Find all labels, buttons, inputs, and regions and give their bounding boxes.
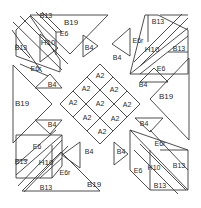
label-tr-b13-lower: B13 [173, 45, 185, 52]
label-a2-7: A2 [83, 114, 92, 121]
label-bottom-b4-left: B4 [85, 148, 94, 155]
label-tr-b13-upper: B13 [152, 18, 164, 25]
quilt-block-diagram: B13 E6 H10 B13 E6r B19 B4 B4 B13 E6r H10… [0, 0, 201, 208]
label-br-h10: H10 [148, 164, 161, 171]
label-a2-4: A2 [69, 99, 78, 106]
label-left-b4-upper: B4 [48, 81, 57, 88]
label-a2-1: A2 [96, 72, 105, 79]
label-tr-e6r: E6r [133, 37, 144, 44]
label-tl-b13-lower: B13 [15, 44, 27, 51]
label-br-b13-upper: B13 [173, 162, 185, 169]
label-br-b13-lower: B13 [154, 182, 166, 189]
label-tl-b13-upper: B13 [40, 12, 52, 19]
label-bl-e6r: E6r [60, 169, 71, 176]
label-tl-e6: E6 [60, 30, 69, 37]
piece-b4-bottom-left [62, 142, 80, 168]
label-br-e6: E6 [134, 167, 143, 174]
label-right-b4-upper: B4 [139, 81, 148, 88]
label-bottom-b4-right: B4 [117, 148, 126, 155]
piece-b4-top-right [112, 28, 130, 56]
label-right-b4-lower: B4 [140, 120, 149, 127]
label-a2-6: A2 [123, 101, 132, 108]
label-a2-2: A2 [82, 85, 91, 92]
label-bottom-b19: B19 [87, 181, 101, 189]
label-bl-b13-upper: B13 [15, 158, 27, 165]
label-bl-e6: E6 [33, 143, 42, 150]
label-tl-e6r: E6r [31, 65, 42, 72]
label-bl-b13-lower: B13 [40, 184, 52, 191]
label-top-b4-left: B4 [85, 44, 94, 51]
label-top-b4-right: B4 [113, 54, 122, 61]
label-tr-h10: H10 [145, 46, 160, 54]
label-br-e6r: E6r [155, 140, 166, 147]
label-bl-h10: H10 [39, 159, 54, 167]
label-tr-e6: E6 [157, 65, 166, 72]
label-a2-3: A2 [110, 86, 119, 93]
label-a2-9: A2 [98, 128, 107, 135]
label-tl-h10: H10 [41, 39, 56, 47]
label-a2-8: A2 [111, 115, 120, 122]
label-a2-5: A2 [96, 100, 105, 107]
label-left-b4-lower: B4 [48, 121, 57, 128]
corner-bottom-left [16, 130, 62, 178]
label-right-b19: B19 [159, 93, 173, 101]
label-top-b19: B19 [64, 19, 78, 27]
label-left-b19: B19 [15, 100, 29, 108]
